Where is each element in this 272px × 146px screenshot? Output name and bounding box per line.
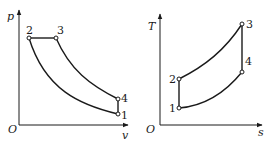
- ts-process-4-1: [179, 72, 242, 108]
- pv-process-1-2: [29, 38, 118, 114]
- ts-point-4: [240, 70, 244, 74]
- ts-label-1: 1: [169, 102, 176, 115]
- pv-diagram: p O v 2 3 4 1: [7, 10, 129, 142]
- thermo-cycle-diagrams: p O v 2 3 4 1 T O s: [0, 0, 272, 146]
- ts-diagram: T O s 1 2 3 4: [146, 14, 264, 139]
- ts-y-axis-label: T: [148, 20, 157, 33]
- pv-label-3: 3: [57, 24, 64, 37]
- pv-label-1: 1: [121, 109, 128, 122]
- pv-label-4: 4: [121, 92, 128, 105]
- pv-x-axis-label: v: [122, 129, 129, 142]
- pv-point-4: [116, 97, 120, 101]
- pv-y-axis-label: p: [7, 10, 14, 23]
- ts-point-1: [177, 106, 181, 110]
- pv-origin-label: O: [8, 123, 17, 136]
- ts-label-3: 3: [246, 18, 253, 31]
- ts-origin-label: O: [146, 123, 155, 136]
- ts-label-2: 2: [169, 73, 176, 86]
- ts-point-3: [240, 22, 244, 26]
- pv-label-2: 2: [26, 24, 33, 37]
- pv-point-1: [116, 112, 120, 116]
- ts-point-2: [177, 77, 181, 81]
- ts-label-4: 4: [245, 55, 252, 68]
- ts-x-axis-label: s: [258, 126, 264, 139]
- pv-process-3-4: [56, 38, 118, 99]
- ts-process-2-3: [179, 24, 242, 79]
